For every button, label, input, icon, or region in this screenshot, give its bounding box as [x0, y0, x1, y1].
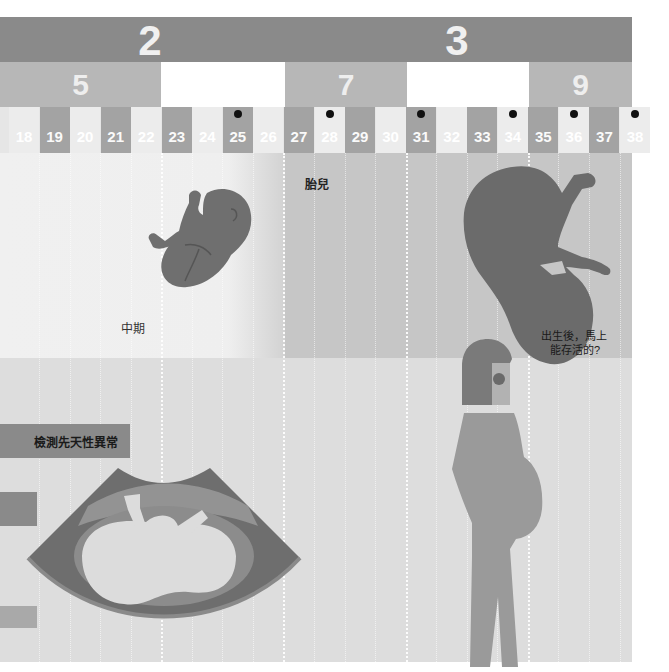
side-marker-light: [0, 606, 37, 628]
week-divider: [314, 153, 315, 662]
week-number: 36: [566, 128, 583, 145]
side-marker-dark: [0, 492, 37, 526]
week-cell: 28: [315, 107, 345, 153]
week-cell: 29: [345, 107, 375, 153]
week-number: 20: [77, 128, 94, 145]
trimester-bar: 23: [0, 17, 632, 62]
week-number: 38: [627, 128, 644, 145]
week-cell: 27: [284, 107, 314, 153]
week-number: 28: [321, 128, 338, 145]
week-divider: [345, 153, 346, 662]
milestone-dot-icon: [417, 110, 425, 118]
week-cell: 34: [498, 107, 528, 153]
anomaly-check-banner: 檢測先天性異常: [0, 424, 130, 458]
week-cell: 24: [192, 107, 222, 153]
milestone-dot-icon: [570, 110, 578, 118]
week-number: 21: [107, 128, 124, 145]
week-number: 35: [535, 128, 552, 145]
week-cell: 21: [101, 107, 131, 153]
week-cell: 36: [559, 107, 589, 153]
anomaly-check-label: 檢測先天性異常: [34, 433, 118, 450]
week-cell: 26: [253, 107, 283, 153]
week-divider: [406, 153, 408, 662]
week-number: 34: [504, 128, 521, 145]
milestone-dot-icon: [234, 110, 242, 118]
fetus-label: 胎兒: [305, 175, 329, 192]
week-cell: 19: [40, 107, 70, 153]
fetus-small-icon: [145, 185, 265, 295]
week-number: 22: [138, 128, 155, 145]
week-number: 30: [382, 128, 399, 145]
week-divider: [375, 153, 376, 662]
pregnant-woman-icon: [448, 337, 568, 667]
week-divider: [650, 153, 651, 662]
week-cell: 30: [376, 107, 406, 153]
month-cell: 9: [529, 62, 632, 107]
week-number: 37: [596, 128, 613, 145]
week-cell: 25: [223, 107, 253, 153]
trimester-number: 2: [138, 17, 161, 62]
week-number: 25: [230, 128, 247, 145]
week-number: 18: [16, 128, 33, 145]
week-cell: 32: [437, 107, 467, 153]
week-number: 19: [46, 128, 63, 145]
week-cell: 18: [9, 107, 39, 153]
week-cell: 37: [589, 107, 619, 153]
week-number: 23: [168, 128, 185, 145]
week-number: 24: [199, 128, 216, 145]
trimester-number: 3: [445, 17, 468, 62]
week-number: 26: [260, 128, 277, 145]
month-row: 579: [0, 62, 632, 107]
milestone-dot-icon: [509, 110, 517, 118]
week-cell: 20: [70, 107, 100, 153]
month-cell: 7: [285, 62, 407, 107]
week-cell: 33: [467, 107, 497, 153]
month-cell-blank: [407, 62, 529, 107]
week-cell: 31: [406, 107, 436, 153]
week-divider: [436, 153, 437, 662]
week-cell: 38: [620, 107, 650, 153]
week-number: 32: [443, 128, 460, 145]
month-cell-blank: [161, 62, 285, 107]
survival-label-line2: 能存活的?: [550, 341, 600, 357]
mid-term-label: 中期: [121, 319, 145, 336]
week-number: 31: [413, 128, 430, 145]
week-number: 33: [474, 128, 491, 145]
month-cell: 5: [0, 62, 161, 107]
week-row: 1819202122232425262728293031323334353637…: [0, 107, 632, 153]
milestone-dot-icon: [631, 110, 639, 118]
week-number: 29: [352, 128, 369, 145]
week-cell: 22: [131, 107, 161, 153]
week-cell: 23: [162, 107, 192, 153]
week-number: 27: [291, 128, 308, 145]
milestone-dot-icon: [326, 110, 334, 118]
week-cell: 35: [528, 107, 558, 153]
ultrasound-image: [28, 466, 298, 631]
